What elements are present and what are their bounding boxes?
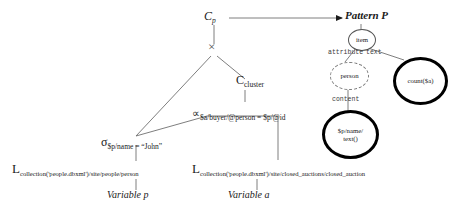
- selection-operator-subscript: $p/name = “John”: [107, 142, 162, 151]
- loader-right: Lcollection('people.dbxml')/site/closed_…: [192, 160, 365, 176]
- construct-operator-symbol: C: [204, 9, 212, 23]
- loader-left: Lcollection('people.dbxml')/site/people/…: [12, 160, 139, 176]
- edge-label-content: content: [332, 97, 359, 104]
- construct-operator-subscript: p: [212, 16, 216, 25]
- loader-left-symbol: L: [12, 161, 20, 176]
- cluster-operator-subscript: cluster: [244, 80, 264, 89]
- join-operator: ∝$a/buyer/@person = $p/@id: [192, 104, 286, 120]
- join-operator-subscript: $a/buyer/@person = $p/@id: [200, 113, 286, 122]
- variable-label-a: Variable a: [228, 190, 269, 200]
- pattern-node-pname-label: $p/name/: [338, 127, 363, 134]
- pattern-node-person: person: [330, 62, 369, 90]
- pattern-node-count-label: count($a): [407, 77, 433, 84]
- pattern-node-pname-label2: text(): [343, 135, 358, 142]
- edge-label-attribute: attribute: [328, 50, 363, 57]
- edge-label-text: text: [366, 50, 382, 57]
- variable-label-p: Variable p: [107, 190, 148, 200]
- edge-cross-select: [136, 56, 211, 136]
- join-operator-symbol: ∝: [192, 107, 200, 119]
- cross-product-symbol: ×: [208, 39, 215, 54]
- loader-right-symbol: L: [192, 161, 200, 176]
- pattern-node-item: item: [348, 29, 376, 51]
- loader-left-subscript: collection('people.dbxml')/site/people/p…: [20, 170, 139, 177]
- cross-product-operator: ×: [208, 40, 215, 53]
- loader-right-subscript: collection('people.dbxml')/site/closed_a…: [200, 170, 365, 177]
- pattern-node-count: count($a): [393, 57, 448, 105]
- pattern-title: Pattern P: [345, 10, 388, 21]
- construct-operator: Cp: [204, 10, 216, 22]
- cluster-construct-operator: Ccluster: [236, 74, 264, 86]
- selection-operator: σ$p/name = “John”: [101, 133, 162, 149]
- pattern-node-person-label: person: [340, 72, 358, 79]
- figure-canvas: Cp × Ccluster ∝$a/buyer/@person = $p/@id…: [0, 0, 451, 210]
- pattern-node-item-label: item: [356, 36, 368, 43]
- cluster-operator-symbol: C: [236, 73, 244, 87]
- pattern-node-pname: $p/name/ text(): [322, 110, 379, 159]
